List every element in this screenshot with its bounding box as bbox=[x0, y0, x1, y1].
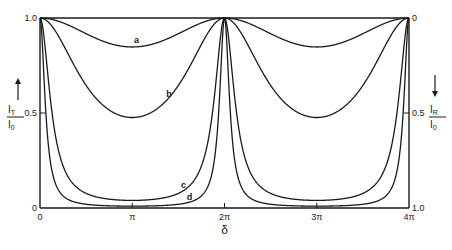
x-axis-label: δ bbox=[221, 223, 228, 237]
right-y-label: IRI0 bbox=[429, 75, 446, 131]
up-arrow-head bbox=[15, 78, 21, 84]
curves bbox=[40, 18, 409, 206]
right-y-numerator: IR bbox=[430, 104, 438, 116]
curve-c bbox=[40, 18, 409, 200]
right-y-tick-label: 1.0 bbox=[412, 203, 425, 213]
axes bbox=[40, 18, 409, 208]
curve-a bbox=[40, 18, 409, 47]
left-y-tick-label: 0 bbox=[32, 203, 37, 213]
down-arrow-head bbox=[432, 91, 438, 97]
curve-label-b: b bbox=[166, 89, 172, 99]
curve-b bbox=[40, 18, 409, 118]
right-y-tick-label: 0.5 bbox=[412, 108, 425, 118]
curve-label-a: a bbox=[134, 35, 140, 45]
x-tick-label: 4π bbox=[403, 212, 414, 222]
right-y-denominator: I0 bbox=[430, 119, 437, 131]
x-tick-label: 3π bbox=[311, 212, 322, 222]
x-tick-label: π bbox=[129, 212, 135, 222]
curve-label-c: c bbox=[181, 180, 186, 190]
left-y-tick-label: 0.5 bbox=[24, 108, 37, 118]
left-y-denominator: I0 bbox=[8, 119, 15, 131]
x-tick-label: 0 bbox=[37, 212, 42, 222]
left-y-numerator: IT bbox=[8, 104, 16, 116]
ticks bbox=[40, 113, 409, 208]
left-y-label: ITI0 bbox=[7, 78, 24, 131]
airy-transmission-chart: abcd0π2π3π4π00.51.01.00.50δITI0IRI0 bbox=[0, 0, 452, 250]
left-y-tick-label: 1.0 bbox=[24, 13, 37, 23]
x-tick-label: 2π bbox=[219, 212, 230, 222]
curve-label-d: d bbox=[187, 192, 193, 202]
curve-d bbox=[40, 18, 409, 206]
right-y-tick-label: 0 bbox=[412, 13, 417, 23]
